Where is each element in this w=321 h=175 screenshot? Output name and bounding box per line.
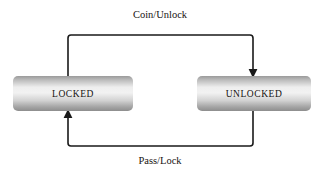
transition-coin-unlock: Coin/Unlock xyxy=(68,9,257,78)
state-node-unlocked[interactable]: UNLOCKED xyxy=(197,76,311,111)
state-diagram: Coin/Unlock Pass/Lock LOCKED UNLOCKED xyxy=(0,0,321,175)
state-locked-label: LOCKED xyxy=(52,89,94,99)
state-unlocked-label: UNLOCKED xyxy=(226,89,283,99)
transition-label-coin-unlock: Coin/Unlock xyxy=(133,9,188,20)
state-node-locked[interactable]: LOCKED xyxy=(13,76,133,111)
transition-label-pass-lock: Pass/Lock xyxy=(138,155,182,166)
transition-coin-unlock-line xyxy=(68,35,253,76)
transition-pass-lock-line xyxy=(68,111,253,146)
transition-pass-lock: Pass/Lock xyxy=(64,109,253,166)
diagram-canvas: Coin/Unlock Pass/Lock LOCKED UNLOCKED xyxy=(0,0,321,175)
